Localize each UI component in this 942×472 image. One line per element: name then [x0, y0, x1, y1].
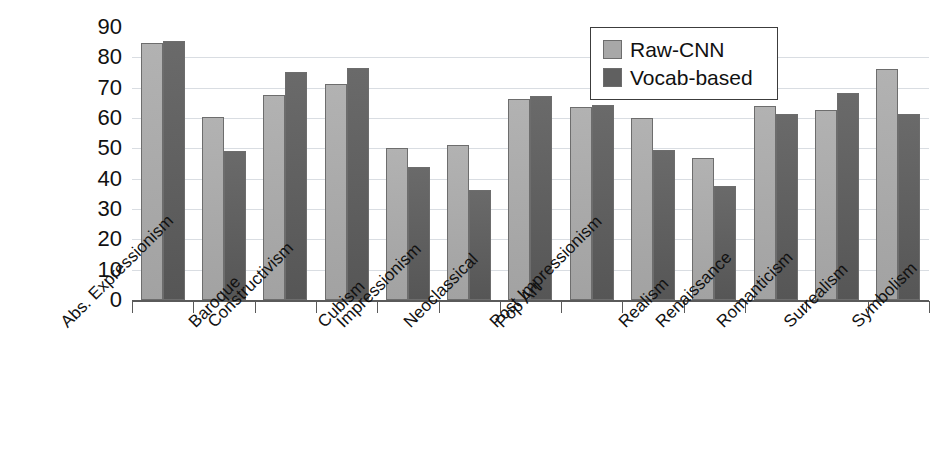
- plot-area: [132, 27, 929, 300]
- y-axis-tick-label: 20: [76, 228, 122, 250]
- bar-raw-cnn: [876, 69, 898, 300]
- bar-chart: 9080706050403020100 Abs. ExpressionismBa…: [0, 0, 942, 472]
- x-axis-tick: [929, 301, 930, 313]
- legend-label: Vocab-based: [630, 67, 753, 88]
- y-axis-tick-label: 80: [76, 46, 122, 68]
- legend-item-raw-cnn: Raw-CNN: [603, 35, 767, 63]
- bar-group: [193, 27, 254, 300]
- x-axis-tick: [316, 301, 317, 313]
- bar-raw-cnn: [202, 117, 224, 300]
- bar-raw-cnn: [325, 84, 347, 300]
- legend-label: Raw-CNN: [630, 39, 725, 60]
- bar-raw-cnn: [508, 99, 530, 300]
- y-axis-tick-label: 50: [76, 137, 122, 159]
- x-axis-tick: [561, 301, 562, 313]
- chart-legend: Raw-CNN Vocab-based: [590, 27, 778, 100]
- y-axis-tick-label: 70: [76, 77, 122, 99]
- bar-group: [316, 27, 377, 300]
- bar-vocab-based: [408, 167, 430, 300]
- bar-raw-cnn: [631, 118, 653, 300]
- x-axis-tick: [132, 301, 133, 313]
- y-axis-tick-label: 90: [76, 16, 122, 38]
- bar-raw-cnn: [570, 107, 592, 300]
- y-axis-tick-label: 60: [76, 107, 122, 129]
- bar-vocab-based: [714, 186, 736, 300]
- y-axis-tick-label: 40: [76, 168, 122, 190]
- x-axis-tick: [255, 301, 256, 313]
- y-axis-tick-label: 30: [76, 198, 122, 220]
- bar-vocab-based: [592, 105, 614, 300]
- bar-vocab-based: [285, 72, 307, 300]
- bar-group: [868, 27, 929, 300]
- bar-vocab-based: [469, 190, 491, 300]
- bar-vocab-based: [347, 68, 369, 300]
- legend-swatch-icon: [603, 68, 622, 87]
- bar-raw-cnn: [141, 43, 163, 300]
- bar-vocab-based: [163, 41, 185, 300]
- legend-swatch-icon: [603, 40, 622, 59]
- legend-item-vocab-based: Vocab-based: [603, 63, 767, 91]
- x-axis-tick: [377, 301, 378, 313]
